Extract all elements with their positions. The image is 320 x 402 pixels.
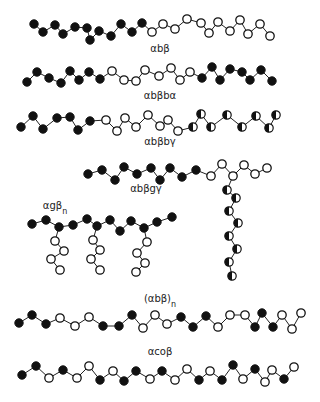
filled-bead — [251, 365, 259, 373]
filled-bead — [268, 77, 276, 85]
filled-bead — [18, 371, 26, 379]
chain-0 — [30, 15, 274, 44]
open-bead — [71, 322, 79, 330]
filled-bead — [120, 377, 128, 385]
filled-bead — [128, 311, 136, 319]
open-bead — [214, 18, 222, 26]
filled-bead — [202, 312, 210, 320]
filled-bead — [96, 75, 104, 83]
half-filled-bead — [225, 232, 233, 240]
open-bead — [297, 309, 305, 317]
filled-bead — [208, 63, 216, 71]
open-bead — [85, 313, 93, 321]
filled-bead — [74, 126, 82, 134]
chain-label: (αbβ)n — [144, 293, 176, 309]
open-bead — [143, 238, 151, 246]
filled-bead — [216, 76, 224, 84]
half-filled-bead — [225, 207, 233, 215]
open-bead — [102, 116, 110, 124]
filled-bead — [33, 68, 41, 76]
filled-bead — [238, 68, 246, 76]
filled-bead — [95, 27, 103, 35]
open-bead — [121, 114, 129, 122]
open-bead — [151, 311, 159, 319]
half-filled-bead — [265, 124, 273, 132]
open-bead — [176, 76, 184, 84]
filled-bead — [168, 213, 176, 221]
open-bead — [186, 68, 194, 76]
filled-bead — [59, 30, 67, 38]
filled-bead — [178, 173, 186, 181]
filled-bead — [127, 217, 135, 225]
open-bead — [183, 15, 191, 23]
filled-bead — [153, 218, 161, 226]
open-bead — [251, 170, 259, 178]
filled-bead — [218, 376, 226, 384]
filled-bead — [66, 113, 74, 121]
open-bead — [268, 366, 276, 374]
open-bead — [218, 160, 226, 168]
filled-bead — [138, 19, 146, 27]
filled-bead — [66, 67, 74, 75]
filled-bead — [120, 163, 128, 171]
half-filled-bead — [252, 112, 260, 120]
open-bead — [197, 19, 205, 27]
filled-bead — [280, 375, 288, 383]
open-bead — [206, 367, 214, 375]
filled-bead — [29, 112, 37, 120]
open-bead — [256, 20, 264, 28]
filled-bead — [39, 28, 47, 36]
chain-label: αbβbα — [144, 90, 177, 101]
filled-bead — [107, 32, 115, 40]
open-bead — [51, 237, 59, 245]
open-bead — [240, 161, 248, 169]
chain-label: αbβbγ — [144, 136, 176, 147]
filled-bead — [166, 164, 174, 172]
filled-bead — [98, 166, 106, 174]
open-bead — [229, 172, 237, 180]
filled-bead — [51, 21, 59, 29]
filled-bead — [71, 23, 79, 31]
open-bead — [171, 376, 179, 384]
filled-bead — [257, 66, 265, 74]
open-bead — [85, 362, 93, 370]
open-bead — [144, 111, 152, 119]
open-bead — [159, 20, 167, 28]
filled-bead — [39, 125, 47, 133]
filled-bead — [83, 24, 91, 32]
chain-2 — [17, 110, 280, 135]
filled-bead — [75, 76, 83, 84]
filled-bead — [86, 36, 94, 44]
open-bead — [141, 66, 149, 74]
filled-bead — [177, 313, 185, 321]
filled-bead — [69, 221, 77, 229]
open-bead — [214, 323, 222, 331]
filled-bead — [229, 361, 237, 369]
open-bead — [226, 27, 234, 35]
filled-bead — [93, 222, 101, 230]
open-bead — [239, 375, 247, 383]
filled-bead — [42, 216, 50, 224]
half-filled-bead — [238, 123, 246, 131]
open-bead — [141, 259, 149, 267]
half-filled-bead — [189, 123, 197, 131]
chain-label: αcoβ — [148, 346, 173, 357]
open-bead — [236, 16, 244, 24]
filled-bead — [23, 78, 31, 86]
filled-bead — [258, 309, 266, 317]
open-bead — [96, 246, 104, 254]
filled-bead — [195, 376, 203, 384]
half-filled-bead — [234, 219, 242, 227]
filled-bead — [32, 362, 40, 370]
filled-bead — [15, 319, 23, 327]
open-bead — [183, 365, 191, 373]
filled-bead — [83, 215, 91, 223]
half-filled-bead — [223, 111, 231, 119]
open-bead — [89, 236, 97, 244]
half-filled-bead — [228, 272, 236, 280]
open-bead — [244, 30, 252, 38]
open-bead — [109, 367, 117, 375]
filled-bead — [140, 224, 148, 232]
filled-bead — [45, 74, 53, 82]
filled-bead — [28, 220, 36, 228]
